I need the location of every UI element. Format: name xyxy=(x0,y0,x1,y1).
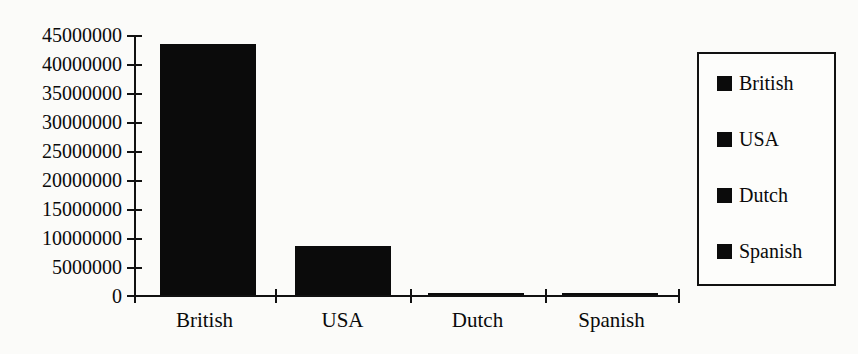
legend-item-british: British xyxy=(717,73,793,93)
legend-swatch-icon xyxy=(717,76,732,91)
x-axis-tick-mark xyxy=(410,289,412,303)
y-axis-tick-label: 0 xyxy=(0,286,122,306)
bar-dutch xyxy=(428,293,524,295)
y-axis-line xyxy=(134,35,136,296)
legend-item-dutch: Dutch xyxy=(717,185,788,205)
x-axis-tick-mark xyxy=(275,289,277,303)
chart-legend: British USA Dutch Spanish xyxy=(697,52,836,286)
x-axis-tick-mark xyxy=(545,289,547,303)
y-axis-tick-label: 10000000 xyxy=(0,228,122,248)
bar-usa xyxy=(295,246,391,295)
x-axis-tick-mark xyxy=(134,289,136,303)
y-axis-tick-label: 15000000 xyxy=(0,199,122,219)
legend-swatch-icon xyxy=(717,132,732,147)
legend-label: USA xyxy=(739,129,779,149)
legend-swatch-icon xyxy=(717,244,732,259)
legend-item-usa: USA xyxy=(717,129,779,149)
x-axis-label-british: British xyxy=(134,308,275,332)
y-axis-tick-label: 30000000 xyxy=(0,112,122,132)
x-axis-label-dutch: Dutch xyxy=(410,308,545,332)
bar-british xyxy=(160,44,256,295)
bar-chart-figure: 45000000 40000000 35000000 30000000 2500… xyxy=(0,0,858,354)
y-axis-tick-label: 5000000 xyxy=(0,257,122,277)
legend-label: Dutch xyxy=(739,185,788,205)
legend-label: Spanish xyxy=(739,241,802,261)
bar-spanish xyxy=(562,293,658,295)
x-axis-label-spanish: Spanish xyxy=(545,308,678,332)
legend-item-spanish: Spanish xyxy=(717,241,802,261)
legend-label: British xyxy=(739,73,793,93)
x-axis-label-usa: USA xyxy=(275,308,410,332)
y-axis-tick-label: 20000000 xyxy=(0,170,122,190)
y-axis-tick-label: 45000000 xyxy=(0,25,122,45)
x-axis-tick-mark xyxy=(678,289,680,303)
legend-swatch-icon xyxy=(717,188,732,203)
y-axis-tick-label: 25000000 xyxy=(0,141,122,161)
y-axis-tick-label: 40000000 xyxy=(0,54,122,74)
y-axis-tick-label: 35000000 xyxy=(0,83,122,103)
x-axis-line xyxy=(134,295,680,297)
